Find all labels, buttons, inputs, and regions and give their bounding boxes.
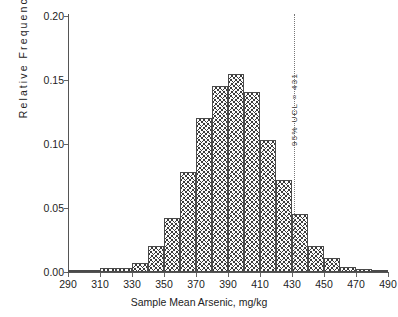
x-tick-mark: [324, 273, 325, 277]
histogram-bar: [148, 246, 164, 272]
x-tick-mark: [356, 273, 357, 277]
x-tick-mark: [164, 273, 165, 277]
x-tick-mark: [196, 273, 197, 277]
histogram-bar: [116, 268, 132, 272]
histogram-bar: [324, 258, 340, 272]
y-tick-label: 0.00: [30, 267, 64, 277]
y-tick-label: 0.20: [30, 11, 64, 21]
x-tick-mark: [228, 273, 229, 277]
histogram-bar: [356, 269, 372, 272]
x-tick-mark: [260, 273, 261, 277]
x-tick-label: 490: [371, 278, 398, 290]
histogram-bar: [164, 218, 180, 272]
x-tick-label: 310: [83, 278, 117, 290]
x-tick-mark: [292, 273, 293, 277]
x-tick-mark: [132, 273, 133, 277]
histogram-bar: [340, 267, 356, 272]
x-tick-mark: [388, 273, 389, 277]
ucl-annotation-label: 95% UCL = 431: [290, 73, 299, 146]
y-tick-label: 0.05: [30, 203, 64, 213]
x-tick-mark: [100, 273, 101, 277]
x-tick-mark: [68, 273, 69, 277]
x-tick-label: 370: [179, 278, 213, 290]
histogram-bar: [308, 246, 324, 272]
histogram-bar: [372, 270, 388, 272]
histogram-bar: [212, 86, 228, 272]
x-tick-label: 470: [339, 278, 373, 290]
histogram-bar: [100, 268, 116, 272]
x-tick-label: 430: [275, 278, 309, 290]
y-tick-label: 0.10: [30, 139, 64, 149]
histogram-bar: [84, 270, 100, 272]
histogram-bar: [260, 140, 276, 272]
y-axis-ticks: 0.20 0.15 0.10 0.05 0.00: [28, 0, 64, 317]
x-axis-title: Sample Mean Arsenic, mg/kg: [0, 296, 398, 308]
y-tick-label: 0.15: [30, 75, 64, 85]
histogram-bar: [196, 118, 212, 272]
x-tick-label: 410: [243, 278, 277, 290]
histogram-bar: [244, 92, 260, 272]
x-axis-ticks: 290310330350370390410430450470490: [0, 278, 398, 294]
histogram-bar: [276, 180, 292, 272]
x-tick-label: 330: [115, 278, 149, 290]
histogram-figure: Relative Frequency 0.20 0.15 0.10 0.05 0…: [0, 0, 398, 317]
histogram-bar: [228, 74, 244, 272]
x-tick-label: 290: [51, 278, 85, 290]
x-tick-label: 350: [147, 278, 181, 290]
histogram-bar: [132, 263, 148, 272]
x-tick-label: 390: [211, 278, 245, 290]
histogram-bar: [68, 270, 84, 272]
x-tick-label: 450: [307, 278, 341, 290]
plot-area: 95% UCL = 431: [68, 16, 388, 272]
histogram-bar: [180, 172, 196, 272]
